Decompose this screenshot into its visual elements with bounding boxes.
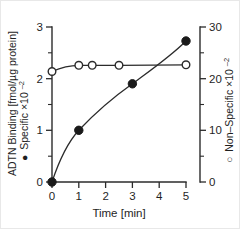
right-axis: 30 20 10 0 [200, 21, 222, 188]
left-tick-label-0: 0 [37, 176, 43, 188]
x-tick-label-3: 3 [129, 190, 135, 202]
left-axis-title-sub-sup: –2 [17, 81, 26, 89]
right-tick-label-10: 10 [209, 124, 222, 136]
left-axis-title-main: ADTN Binding [fmol/µg protein] [6, 31, 18, 176]
non-specific-point-3 [115, 62, 123, 70]
left-axis: 3 2 1 0 [37, 21, 52, 188]
right-axis-title-group: ○ Non–Specific ×10 –2 [222, 58, 235, 163]
left-axis-title-group: ADTN Binding [fmol/µg protein] ● Specifi… [6, 31, 30, 176]
right-tick-label-0: 0 [209, 176, 215, 188]
non-specific-marker-icon: ○ [223, 157, 235, 163]
x-axis-title: Time [min] [92, 207, 145, 219]
specific-point-0 [48, 178, 56, 186]
left-axis-title-sub-text: Specific ×10 [18, 92, 30, 150]
non-specific-point-1 [75, 62, 83, 70]
right-tick-label-20: 20 [209, 73, 222, 85]
series-specific [48, 37, 190, 186]
left-tick-label-2: 2 [37, 73, 43, 85]
right-axis-title-sup: –2 [222, 58, 231, 66]
x-axis: 0 1 2 3 4 5 Time [min] [49, 182, 189, 219]
non-specific-point-0 [48, 68, 56, 76]
left-axis-title-sub: ● Specific ×10 –2 [17, 81, 30, 161]
x-tick-label-1: 1 [76, 190, 82, 202]
specific-marker-icon: ● [18, 155, 30, 161]
x-tick-label-0: 0 [49, 190, 55, 202]
right-axis-title-text: Non–Specific ×10 [223, 69, 235, 152]
chart-plot: 3 2 1 0 0 1 2 3 4 5 Time [min] [1, 1, 240, 229]
x-tick-label-2: 2 [102, 190, 108, 202]
specific-point-2 [128, 80, 136, 88]
non-specific-point-4 [182, 61, 190, 69]
left-tick-label-1: 1 [37, 124, 43, 136]
x-tick-label-5: 5 [183, 190, 189, 202]
right-axis-title: ○ Non–Specific ×10 –2 [222, 58, 235, 163]
right-tick-label-30: 30 [209, 21, 222, 33]
series-non-specific [48, 61, 190, 75]
specific-point-1 [75, 126, 83, 134]
left-tick-label-3: 3 [37, 21, 43, 33]
x-tick-label-4: 4 [156, 190, 163, 202]
figure-container: 3 2 1 0 0 1 2 3 4 5 Time [min] [0, 0, 240, 229]
specific-point-3 [182, 37, 190, 45]
non-specific-point-2 [88, 62, 96, 70]
